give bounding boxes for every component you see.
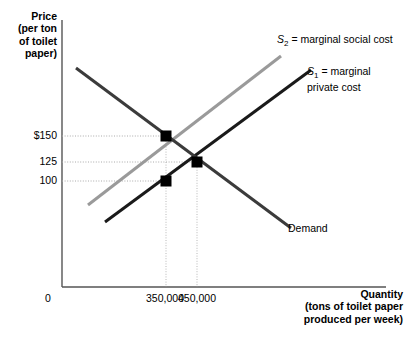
s2-symbol: S <box>277 33 284 45</box>
curve-label-s2: S2 = marginal social cost <box>277 33 393 49</box>
x-axis-title: Quantity(tons of toilet paperproduced pe… <box>243 288 403 325</box>
y-axis-title-line-4: paper) <box>25 47 57 59</box>
x-axis-title-line-1: Quantity <box>360 288 403 300</box>
x-axis-title-line-3: produced per week) <box>304 313 403 325</box>
s1-description: = marginal <box>318 65 370 77</box>
origin-label: 0 <box>40 292 56 304</box>
y-tick-label-100: 100 <box>13 174 57 186</box>
y-axis-title-line-3: of toilet <box>19 35 57 47</box>
y-axis-title-line-1: Price <box>31 10 57 22</box>
s1-description-line-2: private cost <box>307 81 361 93</box>
point-social-optimum <box>161 131 172 142</box>
curve-label-s1: S1 = marginalprivate cost <box>307 65 371 93</box>
y-axis-title-line-2: (per ton <box>18 22 57 34</box>
x-tick-label-450000: 450,000 <box>168 292 226 304</box>
y-tick-label-150: $150 <box>13 129 57 141</box>
s2-description: = marginal social cost <box>288 33 392 45</box>
point-private-cost-at-optimum <box>161 176 172 187</box>
curve-s2-marginal-social-cost <box>88 56 281 205</box>
curve-label-demand: Demand <box>288 222 328 234</box>
point-market-equilibrium <box>192 157 203 168</box>
s1-symbol: S <box>307 65 314 77</box>
y-tick-label-125: 125 <box>13 155 57 167</box>
y-axis-title: Price(per tonof toiletpaper) <box>0 10 57 60</box>
curve-s1-marginal-private-cost <box>105 70 311 222</box>
x-axis-title-line-2: (tons of toilet paper <box>305 300 403 312</box>
economics-supply-demand-chart: Price(per tonof toiletpaper) Quantity(to… <box>0 0 408 347</box>
curve-demand <box>76 68 291 228</box>
